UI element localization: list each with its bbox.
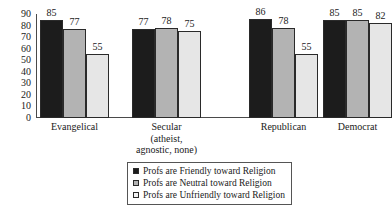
bar-value-label: 82 xyxy=(376,11,386,21)
bar xyxy=(63,29,86,118)
bar-column: 85 xyxy=(40,14,63,118)
bar-value-label: 77 xyxy=(139,17,149,27)
bar-group: 777875 xyxy=(132,14,201,118)
x-tick-label-line: Secular xyxy=(132,121,201,133)
x-tick-label-line: Democrat xyxy=(323,121,392,133)
bar-column: 78 xyxy=(155,14,178,118)
bar-value-label: 78 xyxy=(279,16,289,26)
y-axis-line xyxy=(36,14,37,118)
y-tick-label: 60 xyxy=(21,44,31,54)
x-tick-label-line: Evangelical xyxy=(40,121,109,133)
bar xyxy=(346,20,369,118)
bar xyxy=(155,28,178,118)
x-tick-label: Secular(atheist,agnostic, none) xyxy=(132,121,201,156)
bar-value-label: 85 xyxy=(330,8,340,18)
bar-value-label: 86 xyxy=(256,7,266,17)
y-tick-label: 40 xyxy=(21,67,31,77)
y-tick-label: 10 xyxy=(21,101,31,111)
bar-value-label: 85 xyxy=(353,8,363,18)
series-2-swatch xyxy=(133,192,139,198)
bar xyxy=(272,28,295,118)
series-0-swatch xyxy=(133,168,139,174)
bar-value-label: 77 xyxy=(70,17,80,27)
series-1-swatch xyxy=(133,180,139,186)
y-tick-label: 0 xyxy=(26,113,31,123)
legend-label: Profs are Neutral toward Religion xyxy=(143,178,272,189)
bar xyxy=(40,20,63,118)
plot-area: 857755777875867855858582 xyxy=(38,14,356,118)
y-tick-label: 80 xyxy=(21,21,31,31)
bar-column: 55 xyxy=(86,14,109,118)
x-tick-label-line: agnostic, none) xyxy=(132,144,201,156)
y-tick-label: 50 xyxy=(21,55,31,65)
x-tick-label: Evangelical xyxy=(40,121,109,133)
x-tick-label: Republican xyxy=(249,121,318,133)
y-tick-label: 70 xyxy=(21,32,31,42)
bar-value-label: 78 xyxy=(162,16,172,26)
bar-column: 77 xyxy=(63,14,86,118)
y-tick-label: 90 xyxy=(21,9,31,19)
bar xyxy=(295,54,318,118)
bar-column: 85 xyxy=(323,14,346,118)
legend-label: Profs are Friendly toward Religion xyxy=(143,166,275,177)
bar xyxy=(86,54,109,118)
bar-group: 857755 xyxy=(40,14,109,118)
bar xyxy=(369,23,392,118)
bar xyxy=(249,19,272,118)
bar-column: 77 xyxy=(132,14,155,118)
bar xyxy=(323,20,346,118)
y-tick-label: 20 xyxy=(21,90,31,100)
legend-item: Profs are Friendly toward Religion xyxy=(133,165,285,177)
bar-column: 85 xyxy=(346,14,369,118)
bar-group: 858582 xyxy=(323,14,392,118)
chart-legend: Profs are Friendly toward ReligionProfs … xyxy=(127,162,292,205)
legend-item: Profs are Unfriendly toward Religion xyxy=(133,189,285,201)
bar-column: 75 xyxy=(178,14,201,118)
bar-value-label: 75 xyxy=(185,19,195,29)
x-tick-label-line: Republican xyxy=(249,121,318,133)
bar-column: 55 xyxy=(295,14,318,118)
bar-value-label: 85 xyxy=(47,8,57,18)
bar-value-label: 55 xyxy=(93,42,103,52)
bar-column: 82 xyxy=(369,14,392,118)
bar-group: 867855 xyxy=(249,14,318,118)
x-tick-label-line: (atheist, xyxy=(132,133,201,145)
legend-label: Profs are Unfriendly toward Religion xyxy=(143,190,285,201)
y-axis-tick-labels: 0102030405060708090 xyxy=(0,14,34,118)
y-tick-label: 30 xyxy=(21,78,31,88)
bar xyxy=(178,31,201,118)
legend-item: Profs are Neutral toward Religion xyxy=(133,177,285,189)
bar xyxy=(132,29,155,118)
bar-column: 86 xyxy=(249,14,272,118)
bar-value-label: 55 xyxy=(302,42,312,52)
bar-column: 78 xyxy=(272,14,295,118)
x-tick-label: Democrat xyxy=(323,121,392,133)
